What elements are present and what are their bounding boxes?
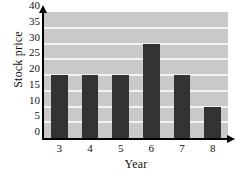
x-axis-tick-labels: 345678 bbox=[44, 142, 228, 158]
x-axis-tick-label: 7 bbox=[167, 142, 198, 155]
x-axis-tick-label: 6 bbox=[136, 142, 167, 155]
bar bbox=[174, 75, 191, 138]
bar bbox=[51, 75, 68, 138]
bar bbox=[82, 75, 99, 138]
y-axis-tick-label: 40 bbox=[18, 0, 40, 11]
y-axis-tick-label: 5 bbox=[18, 110, 40, 121]
y-axis-tick-labels: 0510152025303540 bbox=[18, 6, 40, 132]
y-axis-tick-label: 30 bbox=[18, 32, 40, 43]
y-axis-tick-label: 20 bbox=[18, 63, 40, 74]
x-axis-tick-label: 3 bbox=[44, 142, 75, 155]
bar-chart: Stock price 0510152025303540 345678 Year bbox=[0, 0, 237, 175]
bars-group bbox=[44, 12, 228, 138]
x-axis-tick-label: 5 bbox=[105, 142, 136, 155]
y-axis-tick-label: 35 bbox=[18, 16, 40, 27]
bar bbox=[112, 75, 129, 138]
bar bbox=[143, 44, 160, 139]
x-axis-title: Year bbox=[44, 157, 228, 172]
plot-area bbox=[44, 12, 228, 138]
arrow-up-icon bbox=[39, 5, 47, 13]
x-axis-line bbox=[42, 138, 228, 140]
y-axis-tick-label: 0 bbox=[18, 126, 40, 137]
bar bbox=[204, 107, 221, 139]
y-axis-tick-label: 25 bbox=[18, 47, 40, 58]
arrow-right-icon bbox=[227, 135, 235, 143]
y-axis-tick-label: 10 bbox=[18, 95, 40, 106]
y-axis-tick-label: 15 bbox=[18, 79, 40, 90]
x-axis-tick-label: 4 bbox=[75, 142, 106, 155]
x-axis-tick-label: 8 bbox=[197, 142, 228, 155]
y-axis-line bbox=[42, 12, 44, 139]
